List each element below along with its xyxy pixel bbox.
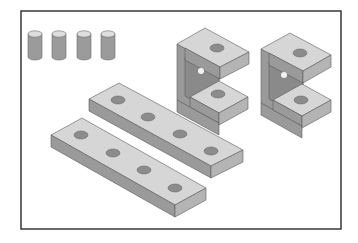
pin-1 xyxy=(28,31,42,60)
parts-illustration xyxy=(0,0,358,243)
hole xyxy=(173,130,187,138)
hole xyxy=(106,149,120,157)
hole xyxy=(137,166,151,174)
hole xyxy=(74,131,88,139)
hole xyxy=(168,184,182,192)
hole xyxy=(141,113,155,121)
pin-3 xyxy=(77,31,91,60)
c-bracket-1 xyxy=(177,28,249,135)
pin-4 xyxy=(101,31,115,60)
hole xyxy=(204,147,218,155)
hole xyxy=(111,96,125,104)
pin-2 xyxy=(52,31,66,60)
c-bracket-2 xyxy=(261,33,331,138)
pins-group xyxy=(28,31,115,60)
